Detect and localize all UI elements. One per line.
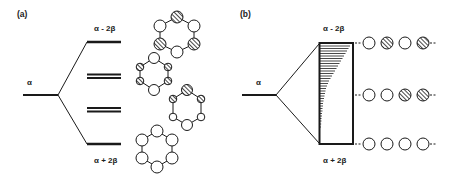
- orbital-ring-third: [169, 85, 205, 131]
- bottom-level-label: α + 2β: [94, 156, 117, 165]
- p-orbital-open-icon: [151, 161, 163, 173]
- p-orbital-open-icon: [399, 138, 411, 150]
- split-line-up: [58, 42, 87, 95]
- p-orbital-open-icon: [169, 113, 177, 121]
- energy-band: [320, 43, 354, 144]
- orbital-ring-top: [154, 11, 200, 58]
- top-level-label: α - 2β: [323, 24, 344, 33]
- p-orbital-hatched-icon: [164, 77, 172, 85]
- p-orbital-open-icon: [171, 46, 183, 58]
- p-orbital-open-icon: [154, 20, 166, 32]
- split-line-up: [276, 44, 319, 95]
- mo-diagram: (a) α α - 2β α + 2β: [0, 0, 458, 179]
- p-orbital-open-icon: [417, 138, 429, 150]
- p-orbital-hatched-icon: [136, 77, 144, 85]
- p-orbital-open-icon: [166, 152, 178, 164]
- p-orbital-open-icon: [381, 138, 393, 150]
- p-orbital-open-icon: [188, 20, 200, 32]
- panel-b: (b) α α - 2β α + 2β: [240, 9, 436, 165]
- p-orbital-hatched-icon: [197, 95, 205, 103]
- panel-b-label: (b): [240, 9, 251, 19]
- p-orbital-hatched-icon: [381, 37, 393, 49]
- bottom-level-label: α + 2β: [323, 156, 346, 165]
- p-orbital-open-icon: [399, 37, 411, 49]
- p-orbital-open-icon: [381, 89, 393, 101]
- p-orbital-open-icon: [149, 85, 160, 96]
- orbital-chain-middle: [355, 89, 436, 101]
- panel-a: (a) α α - 2β α + 2β: [17, 9, 205, 173]
- p-orbital-open-icon: [149, 53, 160, 64]
- split-line-down: [276, 95, 319, 143]
- alpha-label: α: [27, 78, 32, 87]
- level-degenerate-lower: [87, 108, 121, 112]
- p-orbital-hatched-icon: [399, 89, 411, 101]
- band-level-lines: [320, 46, 350, 127]
- orbital-chain-top: [355, 37, 436, 49]
- p-orbital-hatched-icon: [417, 89, 429, 101]
- p-orbital-open-icon: [166, 134, 178, 146]
- p-orbital-hatched-icon: [169, 95, 177, 103]
- orbital-ring-bottom: [136, 125, 178, 173]
- orbital-chain-bottom: [355, 138, 436, 150]
- p-orbital-hatched-icon: [164, 63, 172, 71]
- p-orbital-hatched-icon: [171, 11, 183, 23]
- p-orbital-hatched-icon: [417, 37, 429, 49]
- p-orbital-open-icon: [363, 89, 375, 101]
- orbital-ring-second: [136, 53, 172, 96]
- p-orbital-open-icon: [363, 37, 375, 49]
- split-line-down: [58, 95, 87, 144]
- alpha-label: α: [256, 78, 261, 87]
- top-level-label: α - 2β: [94, 24, 115, 33]
- level-degenerate-upper: [87, 75, 121, 79]
- p-orbital-hatched-icon: [136, 63, 144, 71]
- p-orbital-open-icon: [151, 125, 163, 137]
- p-orbital-hatched-icon: [154, 38, 166, 50]
- p-orbital-hatched-icon: [188, 38, 200, 50]
- panel-a-label: (a): [17, 9, 28, 19]
- p-orbital-open-icon: [182, 120, 193, 131]
- p-orbital-open-icon: [363, 138, 375, 150]
- p-orbital-hatched-icon: [182, 85, 193, 96]
- p-orbital-open-icon: [136, 152, 148, 164]
- p-orbital-open-icon: [197, 113, 205, 121]
- p-orbital-open-icon: [136, 134, 148, 146]
